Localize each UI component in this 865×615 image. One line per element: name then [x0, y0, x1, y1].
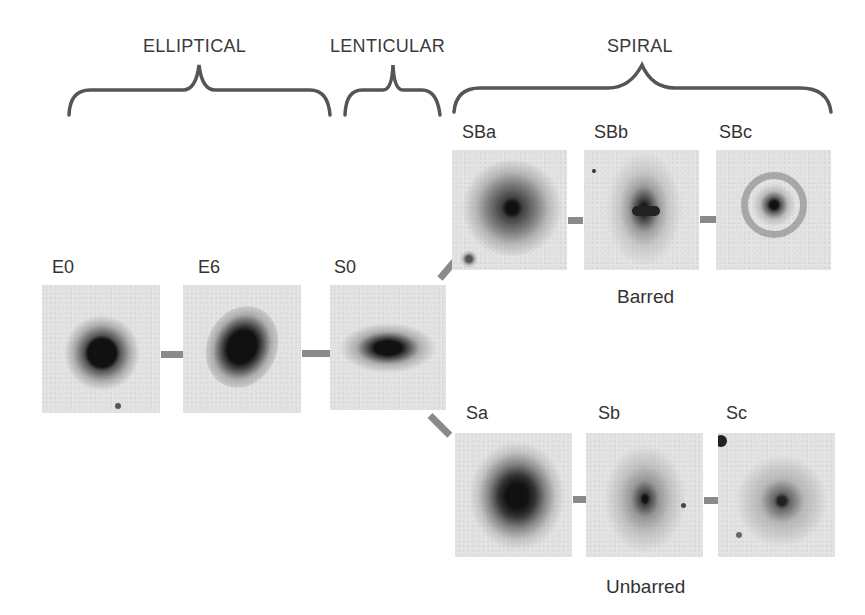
type-label-e6: E6	[198, 257, 220, 278]
galaxy-panel-s0	[330, 285, 446, 410]
galaxy-panel-e0	[42, 285, 160, 413]
type-label-sb: Sb	[598, 403, 620, 424]
type-label-sbb: SBb	[594, 122, 628, 143]
type-label-s0: S0	[334, 257, 356, 278]
type-label-sc: Sc	[726, 403, 747, 424]
galaxy-panel-sba	[452, 150, 567, 270]
galaxy-panel-sbc	[716, 150, 831, 270]
unbarred-label: Unbarred	[606, 576, 685, 598]
barred-spiral-galaxy-icon	[751, 182, 797, 228]
star-icon	[592, 169, 596, 173]
galaxy-panel-sb	[586, 433, 703, 557]
spiral-galaxy-icon	[736, 455, 828, 547]
spiral-galaxy-icon	[604, 445, 686, 553]
galaxy-panel-sc	[718, 433, 835, 557]
type-label-sba: SBa	[462, 122, 496, 143]
type-label-sbc: SBc	[719, 122, 752, 143]
galaxy-bar-icon	[632, 206, 660, 216]
connector-e0-e6	[161, 351, 183, 358]
connector-sba-sbb	[568, 217, 583, 224]
barred-spiral-galaxy-icon	[462, 160, 562, 256]
connector-sbb-sbc	[700, 216, 716, 223]
star-icon	[736, 532, 742, 538]
star-icon	[115, 403, 121, 409]
galaxy-panel-sa	[455, 433, 572, 557]
star-icon	[681, 503, 686, 508]
lenticular-brace-icon	[345, 65, 440, 115]
barred-label: Barred	[617, 286, 674, 308]
connector-sa-sb	[573, 496, 586, 503]
connector-e6-s0	[302, 350, 330, 357]
elliptical-galaxy-icon	[64, 315, 140, 391]
star-icon	[460, 250, 478, 268]
lenticular-galaxy-icon	[340, 323, 436, 373]
galaxy-panel-e6	[183, 285, 301, 413]
galaxy-panel-sbb	[584, 150, 699, 270]
star-icon	[718, 435, 727, 447]
connector-s0-unbarred	[428, 413, 453, 438]
spiral-galaxy-icon	[469, 441, 565, 551]
elliptical-brace-icon	[69, 65, 330, 115]
elliptical-galaxy-icon	[193, 294, 292, 400]
type-label-e0: E0	[52, 257, 74, 278]
brace-icon-group	[0, 0, 865, 130]
connector-sb-sc	[704, 497, 718, 504]
type-label-sa: Sa	[466, 403, 488, 424]
spiral-brace-icon	[454, 65, 831, 112]
